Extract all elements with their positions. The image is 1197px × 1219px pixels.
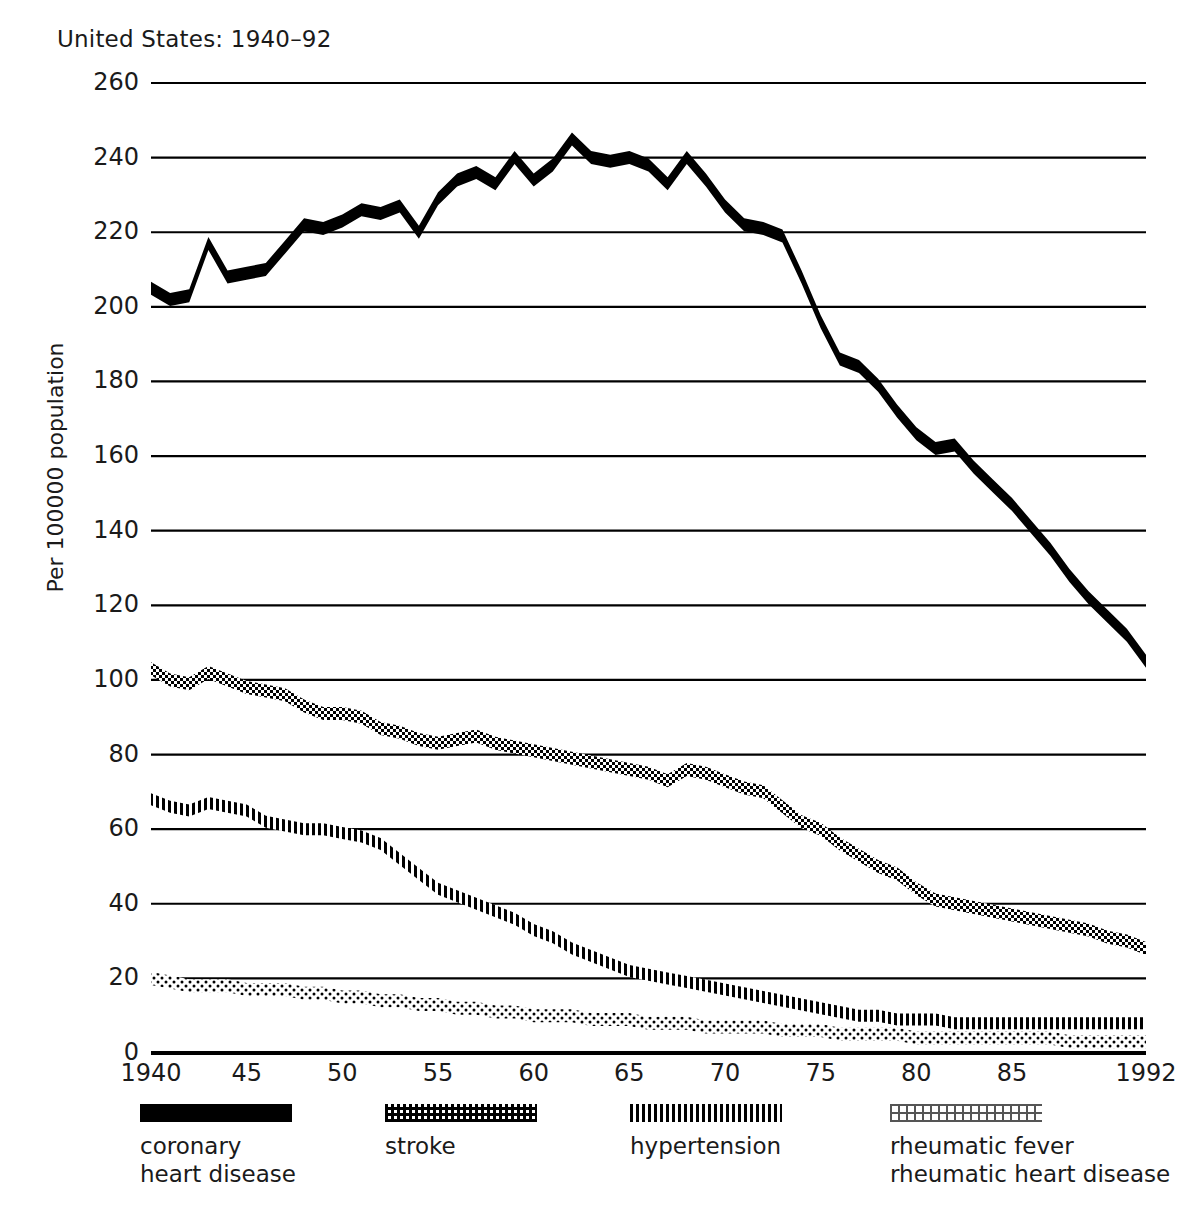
legend-label-line: coronary [140, 1132, 296, 1160]
legend-label-line: rheumatic heart disease [890, 1160, 1170, 1188]
chart-legend: coronaryheart diseasestrokehypertensionr… [0, 1104, 1197, 1204]
legend-label: hypertension [630, 1132, 782, 1160]
legend-label: coronaryheart disease [140, 1132, 296, 1188]
legend-item[interactable]: stroke [385, 1104, 537, 1160]
legend-label: rheumatic feverrheumatic heart disease [890, 1132, 1170, 1188]
series-line-checker [151, 662, 1146, 955]
legend-label-line: heart disease [140, 1160, 296, 1188]
legend-swatch-solid [140, 1104, 292, 1122]
legend-item[interactable]: coronaryheart disease [140, 1104, 296, 1188]
series-line-solid [151, 132, 1146, 667]
series-line-dots [151, 972, 1146, 1048]
series-layer [151, 132, 1146, 1048]
plot-area [0, 0, 1197, 1219]
legend-swatch-checker [385, 1104, 537, 1122]
legend-label: stroke [385, 1132, 537, 1160]
legend-swatch-vertical [630, 1104, 782, 1122]
legend-swatch-dots [890, 1104, 1042, 1122]
legend-label-line: stroke [385, 1132, 537, 1160]
chart-root: United States: 1940–92 Per 100000 popula… [0, 0, 1197, 1219]
legend-item[interactable]: rheumatic feverrheumatic heart disease [890, 1104, 1170, 1188]
legend-label-line: hypertension [630, 1132, 782, 1160]
legend-item[interactable]: hypertension [630, 1104, 782, 1160]
legend-label-line: rheumatic fever [890, 1132, 1170, 1160]
